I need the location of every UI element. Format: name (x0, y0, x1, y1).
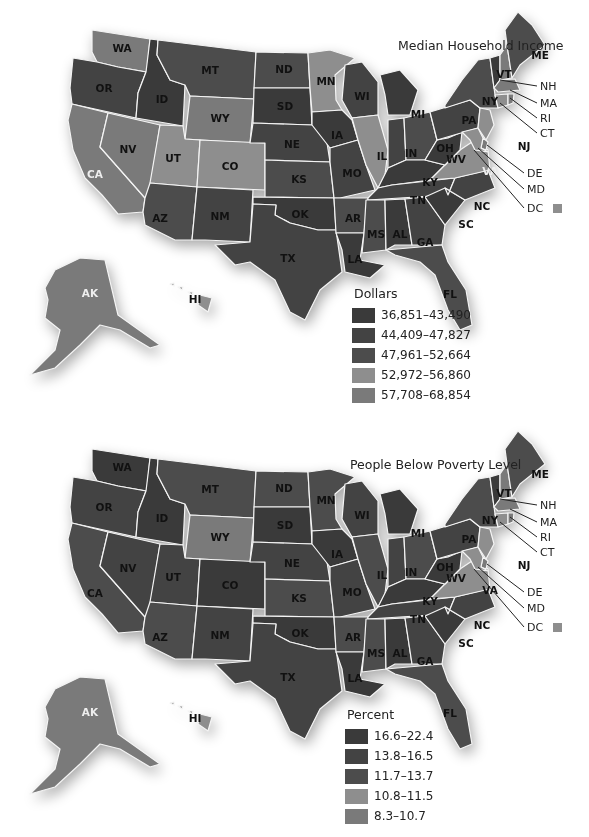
legend-swatch (345, 729, 368, 744)
state-label-or: OR (95, 501, 112, 513)
legend-item: 47,961–52,664 (352, 345, 471, 365)
legend-swatch (345, 809, 368, 824)
state-in (388, 537, 406, 587)
income-map-title: Median Household Income (398, 38, 564, 53)
state-label-me: ME (531, 468, 549, 480)
state-label-fl: FL (443, 707, 457, 719)
state-label-mt: MT (201, 483, 219, 495)
state-ak (30, 677, 160, 794)
legend-label: 44,409–47,827 (381, 328, 471, 342)
income-map-panel: WAORCAIDNVMTWYUTAZCONMNDSDNEKSOKTXMNIAMO… (0, 0, 589, 418)
state-label-mn: MN (316, 494, 335, 506)
callout-label-ma: MA (540, 97, 557, 110)
state-label-nj: NJ (518, 559, 531, 571)
state-label-nc: NC (474, 619, 491, 631)
poverty-legend-title: Percent (347, 707, 433, 722)
state-label-ut: UT (165, 571, 182, 583)
state-label-nd: ND (275, 482, 293, 494)
state-label-ak: AK (82, 706, 99, 718)
state-label-il: IL (377, 150, 388, 162)
state-label-nv: NV (120, 143, 138, 155)
income-choropleth-map: WAORCAIDNVMTWYUTAZCONMNDSDNEKSOKTXMNIAMO… (0, 0, 589, 418)
state-label-wi: WI (354, 509, 370, 521)
state-label-az: AZ (152, 631, 168, 643)
state-label-mt: MT (201, 64, 219, 76)
legend-item: 36,851–43,490 (352, 305, 471, 325)
state-ri (508, 94, 514, 105)
state-label-tx: TX (280, 252, 295, 264)
state-label-nm: NM (210, 629, 229, 641)
callout-label-de: DE (527, 167, 542, 180)
legend-swatch (352, 348, 375, 363)
state-label-la: LA (348, 253, 364, 265)
state-label-ok: OK (291, 627, 309, 639)
state-label-ks: KS (291, 173, 307, 185)
callout-label-nh: NH (540, 499, 557, 512)
state-label-nm: NM (210, 210, 229, 222)
callout-line-ct (500, 522, 537, 552)
state-label-or: OR (95, 82, 112, 94)
state-label-wa: WA (112, 42, 132, 54)
state-label-id: ID (156, 93, 169, 105)
state-label-ne: NE (284, 138, 300, 150)
state-label-ar: AR (345, 631, 361, 643)
state-label-ne: NE (284, 557, 300, 569)
legend-label: 47,961–52,664 (381, 348, 471, 362)
state-label-sd: SD (277, 519, 294, 531)
state-label-sc: SC (458, 637, 474, 649)
legend-label: 16.6–22.4 (374, 729, 433, 743)
callout-label-nh: NH (540, 80, 557, 93)
legend-item: 16.6–22.4 (345, 726, 433, 746)
state-label-wi: WI (354, 90, 370, 102)
state-label-ga: GA (417, 655, 435, 667)
legend-swatch (345, 789, 368, 804)
legend-item: 8.3–10.7 (345, 806, 433, 826)
callout-label-dc: DC (527, 621, 543, 634)
state-label-ga: GA (417, 236, 435, 248)
legend-item: 57,708–68,854 (352, 385, 471, 405)
state-label-co: CO (222, 160, 239, 172)
state-ms (362, 200, 386, 253)
state-label-mo: MO (342, 167, 361, 179)
state-label-ar: AR (345, 212, 361, 224)
state-label-wv: WV (446, 572, 467, 584)
legend-swatch (345, 769, 368, 784)
state-label-ny: NY (482, 95, 499, 107)
state-label-ms: MS (367, 228, 385, 240)
state-label-hi: HI (189, 293, 202, 305)
state-label-mo: MO (342, 586, 361, 598)
state-label-ny: NY (482, 514, 499, 526)
state-label-mn: MN (316, 75, 335, 87)
state-label-ut: UT (165, 152, 182, 164)
callout-label-dc: DC (527, 202, 543, 215)
state-label-tn: TN (410, 194, 426, 206)
legend-label: 57,708–68,854 (381, 388, 471, 402)
state-ri (508, 513, 514, 524)
state-label-ky: KY (422, 595, 438, 607)
state-label-ca: CA (87, 587, 104, 599)
state-label-vt: VT (496, 487, 512, 499)
state-label-tx: TX (280, 671, 295, 683)
callout-label-ri: RI (540, 112, 551, 125)
state-label-wv: WV (446, 153, 467, 165)
state-label-wa: WA (112, 461, 132, 473)
state-label-pa: PA (462, 114, 478, 126)
state-label-ks: KS (291, 592, 307, 604)
income-legend-title: Dollars (354, 286, 471, 301)
state-label-co: CO (222, 579, 239, 591)
callout-label-ct: CT (540, 127, 555, 140)
poverty-choropleth-map: WAORCAIDNVMTWYUTAZCONMNDSDNEKSOKTXMNIAMO… (0, 419, 589, 837)
dc-swatch (553, 623, 562, 632)
state-label-sc: SC (458, 218, 474, 230)
state-in (388, 118, 406, 168)
state-label-az: AZ (152, 212, 168, 224)
legend-item: 44,409–47,827 (352, 325, 471, 345)
legend-label: 13.8–16.5 (374, 749, 433, 763)
legend-swatch (352, 388, 375, 403)
callout-label-ct: CT (540, 546, 555, 559)
legend-swatch (352, 368, 375, 383)
state-label-hi: HI (189, 712, 202, 724)
state-label-mi: MI (411, 108, 425, 120)
legend-label: 52,972–56,860 (381, 368, 471, 382)
legend-swatch (352, 308, 375, 323)
